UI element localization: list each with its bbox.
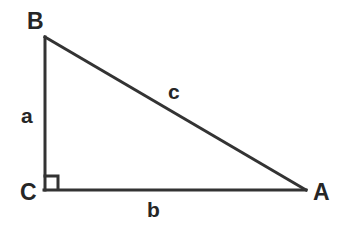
right-angle-marker-icon <box>45 176 58 189</box>
side-label-a: a <box>21 105 33 126</box>
triangle-drawing <box>0 0 347 238</box>
side-label-b: b <box>147 199 160 220</box>
vertex-label-c: C <box>20 181 37 204</box>
vertex-label-a: A <box>313 181 330 204</box>
vertex-label-b: B <box>27 10 44 33</box>
right-triangle-figure: B C A a b c <box>0 0 347 238</box>
side-c-hypotenuse-line <box>45 37 306 190</box>
side-label-c: c <box>168 81 180 102</box>
